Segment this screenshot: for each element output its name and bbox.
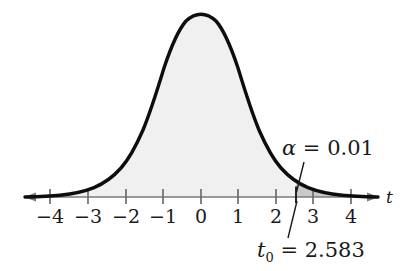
alpha-symbol: α [282, 136, 296, 160]
tick-label-0: 0 [195, 205, 207, 227]
tick-label--2: −2 [112, 205, 140, 227]
tick-label--3: −3 [74, 205, 102, 227]
tick-label-3: 3 [307, 205, 319, 227]
t0-leader-line [288, 201, 297, 238]
x-axis-label: t [386, 187, 393, 207]
tick-label-4: 4 [345, 205, 357, 227]
tick-label--4: −4 [36, 205, 64, 227]
tick-label-1: 1 [232, 205, 244, 227]
tick-label-2: 2 [270, 205, 282, 227]
t0-annotation: t0 = 2.583 [257, 238, 365, 265]
tick-label--1: −1 [149, 205, 177, 227]
t0-value-text: = 2.583 [274, 238, 365, 262]
alpha-annotation: α = 0.01 [282, 136, 374, 160]
t0-subscript: 0 [265, 250, 273, 265]
alpha-value-text: = 0.01 [296, 136, 374, 160]
curve-body-fill [25, 14, 378, 197]
t-distribution-figure: −4 −3 −2 −1 0 1 2 3 4 t α = 0.01 t0 = 2.… [0, 0, 412, 271]
